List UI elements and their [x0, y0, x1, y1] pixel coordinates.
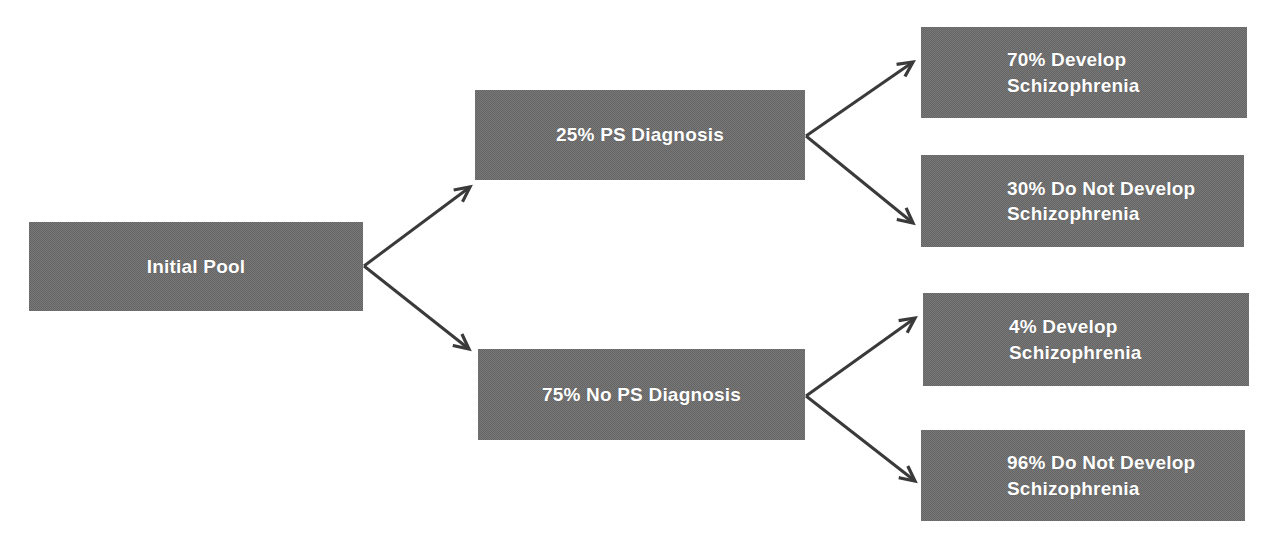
node-label: 75% No PS Diagnosis	[478, 382, 805, 407]
arrowhead-icon	[898, 62, 913, 75]
node-label: Initial Pool	[29, 254, 363, 279]
arrowhead-icon	[898, 209, 913, 223]
edge-initial-to-ps	[364, 187, 470, 266]
node-label: 25% PS Diagnosis	[475, 122, 805, 147]
arrowhead-icon	[454, 335, 469, 349]
node-no-ps-not-develop-schizophrenia[interactable]: 96% Do Not Develop Schizophrenia	[921, 430, 1245, 521]
node-label: 96% Do Not Develop Schizophrenia	[921, 450, 1245, 501]
edge-initial-to-no-ps	[364, 266, 469, 349]
edge-no-ps-to-not-develop	[806, 396, 915, 481]
node-label: 4% Develop Schizophrenia	[923, 314, 1249, 365]
edge-no-ps-to-develop	[806, 318, 915, 396]
flowchart-canvas: Initial Pool 25% PS Diagnosis 75% No PS …	[0, 0, 1280, 546]
node-ps-diagnosis[interactable]: 25% PS Diagnosis	[475, 90, 805, 180]
node-ps-not-develop-schizophrenia[interactable]: 30% Do Not Develop Schizophrenia	[921, 155, 1244, 247]
arrowhead-icon	[900, 318, 915, 331]
node-ps-develop-schizophrenia[interactable]: 70% Develop Schizophrenia	[921, 27, 1247, 118]
node-initial-pool[interactable]: Initial Pool	[29, 222, 363, 311]
node-label: 30% Do Not Develop Schizophrenia	[921, 176, 1244, 227]
node-label: 70% Develop Schizophrenia	[921, 47, 1247, 98]
edge-ps-to-develop	[806, 62, 913, 136]
arrowhead-icon	[455, 187, 470, 200]
edge-ps-to-not-develop	[806, 136, 913, 223]
node-no-ps-develop-schizophrenia[interactable]: 4% Develop Schizophrenia	[923, 293, 1249, 386]
arrowhead-icon	[900, 467, 915, 481]
node-no-ps-diagnosis[interactable]: 75% No PS Diagnosis	[478, 349, 805, 440]
